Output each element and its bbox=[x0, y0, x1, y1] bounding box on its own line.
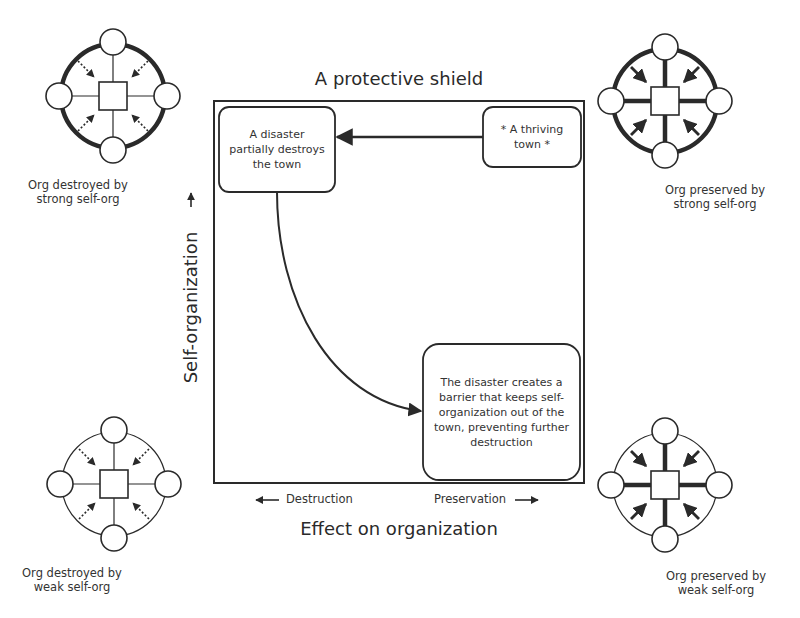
label-line: strong self-org bbox=[18, 192, 138, 206]
label-line: Org preserved by bbox=[655, 183, 775, 197]
org-destroyed-weak-icon bbox=[47, 417, 181, 551]
y-axis-title: Self-organization bbox=[180, 218, 201, 398]
x-axis-title: Effect on organization bbox=[214, 518, 584, 539]
x-axis-left-label: Destruction bbox=[286, 492, 353, 506]
x-axis-right-label: Preservation bbox=[434, 492, 506, 506]
org-preserved-weak-icon bbox=[598, 418, 732, 552]
barrier-text: The disaster creates a barrier that keep… bbox=[430, 346, 573, 478]
label-line: Org destroyed by bbox=[12, 566, 132, 580]
label-line: Org destroyed by bbox=[18, 178, 138, 192]
label-line: strong self-org bbox=[655, 197, 775, 211]
label-destroyed-strong: Org destroyed by strong self-org bbox=[18, 178, 138, 206]
label-destroyed-weak: Org destroyed by weak self-org bbox=[12, 566, 132, 594]
label-line: weak self-org bbox=[12, 580, 132, 594]
label-preserved-strong: Org preserved by strong self-org bbox=[655, 183, 775, 211]
label-line: weak self-org bbox=[656, 583, 776, 597]
diagram-title: A protective shield bbox=[214, 68, 584, 89]
disaster-text: A disaster partially destroys the town bbox=[226, 109, 328, 190]
label-line: Org preserved by bbox=[656, 569, 776, 583]
org-destroyed-strong-icon bbox=[46, 29, 180, 163]
org-preserved-strong-icon bbox=[598, 34, 732, 168]
thriving-town-text: * A thriving town * bbox=[486, 109, 578, 165]
label-preserved-weak: Org preserved by weak self-org bbox=[656, 569, 776, 597]
arrow-disaster-to-barrier bbox=[277, 192, 421, 411]
